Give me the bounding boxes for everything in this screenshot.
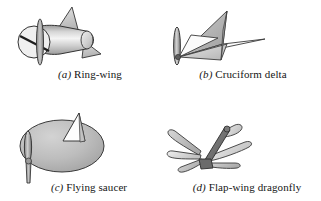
flying-saucer-hub [26,158,32,164]
ring-wing-annular-ring [37,19,44,65]
figure-caption-a-label: (a) [58,68,71,80]
ring-wing-aft-cap [81,31,93,49]
figure-caption-c-text: Flying saucer [66,181,127,193]
figure-caption-a: (a) Ring-wing [10,68,170,80]
figure-caption-d: (d) Flap-wing dragonfly [167,181,321,193]
figure-panel: (a) Ring-wing [0,0,321,201]
dragonfly-hub [199,159,213,169]
cruciform-delta-hub [175,54,180,59]
figure-caption-b-text: Cruciform delta [215,68,286,80]
figure-caption-d-label: (d) [193,181,206,193]
figure-caption-c: (c) Flying saucer [9,181,169,193]
figure-caption-c-label: (c) [51,181,64,193]
figure-caption-d-text: Flap-wing dragonfly [209,181,302,193]
ring-wing-diagram [0,0,160,100]
figure-cell-ring-wing: (a) Ring-wing [0,0,160,100]
figure-cell-cruciform-delta: (b) Cruciform delta [161,0,321,100]
figure-cell-flap-wing-dragonfly: (d) Flap-wing dragonfly [161,101,321,201]
cruciform-delta-diagram [161,0,321,100]
dragonfly-head [224,126,230,132]
figure-caption-b-label: (b) [199,68,212,80]
figure-caption-b: (b) Cruciform delta [163,68,321,80]
flying-saucer-disc [20,120,104,172]
figure-cell-flying-saucer: (c) Flying saucer [0,101,160,201]
figure-caption-a-text: Ring-wing [74,68,122,80]
